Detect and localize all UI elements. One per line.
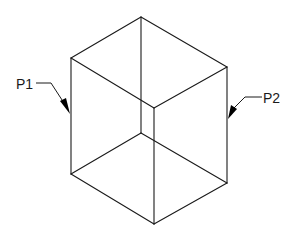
label-p1: P1 [16, 76, 33, 92]
callout-p2: P2 [228, 90, 280, 119]
box-outer-edges [71, 17, 227, 224]
leader-line-p2 [234, 97, 262, 108]
edge-top-right [141, 17, 227, 67]
arrowhead-p1-icon [60, 98, 70, 114]
leader-line-p1 [36, 83, 64, 103]
edge-back-bottom-left [71, 133, 141, 174]
edge-front-top-right [154, 67, 227, 108]
box-inner-edges [71, 17, 227, 224]
edge-top-left [71, 17, 141, 58]
arrowhead-p2-icon [228, 105, 237, 119]
edge-bottom-left [71, 174, 154, 224]
edge-bottom-right [154, 183, 227, 224]
label-p2: P2 [263, 90, 280, 106]
callout-p1: P1 [16, 76, 70, 114]
box-diagram: P1 P2 [0, 0, 299, 236]
